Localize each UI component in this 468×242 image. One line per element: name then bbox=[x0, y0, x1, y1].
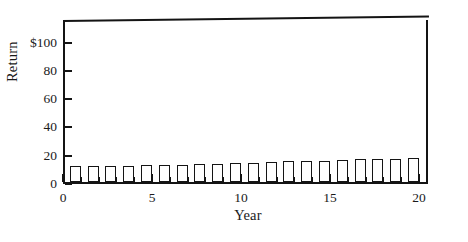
y-tick-80 bbox=[65, 70, 72, 72]
y-tick-label-20: 20 bbox=[44, 148, 58, 164]
y-tick-label-0: 0 bbox=[50, 176, 57, 192]
bar-year-15 bbox=[319, 161, 330, 182]
x-tick-label-0: 0 bbox=[60, 190, 67, 206]
bar-year-16 bbox=[337, 160, 348, 182]
bar-year-11 bbox=[248, 163, 259, 183]
x-tick-label-15: 15 bbox=[323, 190, 337, 206]
y-tick-label-60: 60 bbox=[44, 91, 58, 107]
bar-year-20 bbox=[408, 158, 419, 182]
bar-year-18 bbox=[372, 159, 383, 182]
y-tick-60 bbox=[65, 98, 72, 100]
bar-year-5 bbox=[141, 165, 152, 182]
x-tick-label-5: 5 bbox=[149, 190, 156, 206]
bar-year-2 bbox=[88, 166, 99, 182]
y-tick-40 bbox=[65, 126, 72, 128]
x-tick-label-10: 10 bbox=[234, 190, 248, 206]
plot-frame-top-border bbox=[63, 15, 429, 22]
bar-year-9 bbox=[212, 164, 223, 182]
y-tick-label-100: $100 bbox=[30, 35, 57, 51]
y-tick-0 bbox=[65, 183, 72, 185]
y-tick-20 bbox=[65, 155, 72, 157]
y-tick-label-40: 40 bbox=[44, 119, 58, 135]
bar-year-3 bbox=[105, 166, 116, 182]
bar-year-7 bbox=[177, 165, 188, 182]
figure-bar-chart-return-by-year: Return Year 05101520 020406080$100 bbox=[0, 0, 468, 242]
bar-year-10 bbox=[230, 163, 241, 182]
y-tick-100 bbox=[65, 42, 72, 44]
y-axis-line bbox=[63, 20, 65, 184]
bar-year-13 bbox=[283, 161, 294, 182]
x-axis-title: Year bbox=[0, 207, 468, 224]
x-tick-label-20: 20 bbox=[412, 190, 426, 206]
bar-year-12 bbox=[266, 162, 277, 182]
bar-year-1 bbox=[70, 166, 81, 182]
y-axis-title: Return bbox=[4, 41, 21, 82]
bar-year-14 bbox=[301, 161, 312, 182]
x-axis-line bbox=[63, 182, 428, 184]
bar-year-17 bbox=[355, 159, 366, 182]
plot-area: 05101520 bbox=[63, 20, 428, 184]
bar-year-19 bbox=[390, 159, 401, 182]
bar-year-4 bbox=[123, 166, 134, 182]
y-tick-label-80: 80 bbox=[44, 63, 58, 79]
bar-year-8 bbox=[194, 164, 205, 182]
bar-year-6 bbox=[159, 165, 170, 182]
x-tick-major-0 bbox=[62, 174, 64, 182]
plot-frame-right-border bbox=[426, 20, 428, 184]
